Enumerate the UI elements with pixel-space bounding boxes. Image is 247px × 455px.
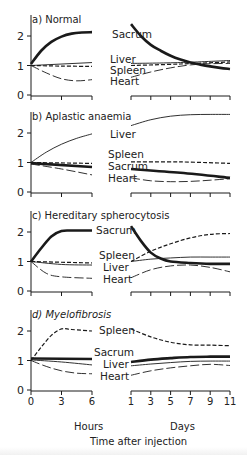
series-liver-hours [31,134,92,163]
series-label-liver: Liver [110,128,136,140]
days-tick-label: 7 [187,396,193,407]
series-label-sacrum: Sacrum [112,28,152,40]
y-tick-label: 1 [17,256,24,269]
panel-c: 012c) Hereditary spherocytosisSacrumSple… [17,210,230,298]
cropped-caption [0,447,247,455]
series-spleen-hours [31,66,92,67]
y-tick-label: 0 [17,186,24,199]
y-tick-label: 0 [17,89,24,102]
series-liver-days [131,114,230,125]
panel-title: c) Hereditary spherocytosis [32,210,169,221]
series-liver-hours [31,63,92,66]
series-label-heart: Heart [108,172,137,184]
series-label-liver: Liver [103,261,129,273]
series-liver-hours [31,360,92,365]
panel-b: 012b) Aplastic anaemiaLiverSpleenSacrumH… [17,111,230,199]
series-spleen-hours [31,329,92,361]
y-tick-label: 2 [17,226,24,239]
hours-tick-label: 0 [28,396,34,407]
series-label-spleen: Spleen [108,148,144,160]
line-chart: 012a) NormalSacrumLiverSpleenHeart012b) … [0,0,247,455]
y-tick-label: 2 [17,127,24,140]
days-tick-label: 1 [128,396,134,407]
series-label-heart: Heart [103,273,132,285]
y-tick-label: 1 [17,60,24,73]
figure: 012a) NormalSacrumLiverSpleenHeart012b) … [0,0,247,455]
panel-d: 0120361357911d) MyelofibrosisSpleenSacru… [17,309,236,407]
y-tick-label: 1 [17,355,24,368]
series-liver-days [131,361,230,366]
x-axis-title-text: Time after injection [60,436,187,447]
days-tick-label: 5 [167,396,173,407]
y-tick-label: 0 [17,384,24,397]
series-heart-days [131,265,230,278]
y-tick-label: 2 [17,30,24,43]
series-label-liver: Liver [103,358,129,370]
series-sacrum-hours [31,230,92,261]
hours-tick-label: 3 [58,396,64,407]
panel-title: b) Aplastic anaemia [32,111,132,122]
series-spleen-days [131,329,230,346]
series-label-heart: Heart [100,370,129,382]
series-label-spleen: Spleen [99,249,135,261]
y-tick-label: 2 [17,325,24,338]
days-tick-label: 9 [207,396,213,407]
days-tick-label: 11 [224,396,237,407]
series-sacrum-days [131,226,230,264]
panel-title: d) Myelofibrosis [32,309,111,320]
series-sacrum-hours [31,32,92,64]
series-label-sacrum: Sacrum [94,346,134,358]
hours-tick-label: 6 [89,396,95,407]
series-heart-days [131,178,230,182]
panel-title: a) Normal [32,14,81,25]
series-label-spleen: Spleen [99,324,135,336]
series-label-sacrum: Sacrum [96,224,136,236]
series-sacrum-hours [31,358,92,359]
series-heart-hours [31,66,92,81]
series-label-sacrum: Sacrum [108,160,148,172]
y-tick-label: 0 [17,285,24,298]
days-tick-label: 3 [148,396,154,407]
series-heart-hours [31,361,92,374]
y-tick-label: 1 [17,157,24,170]
series-label-heart: Heart [110,75,139,87]
series-liver-days [131,257,230,261]
panel-a: 012a) NormalSacrumLiverSpleenHeart [17,14,230,102]
series-heart-days [131,364,230,375]
